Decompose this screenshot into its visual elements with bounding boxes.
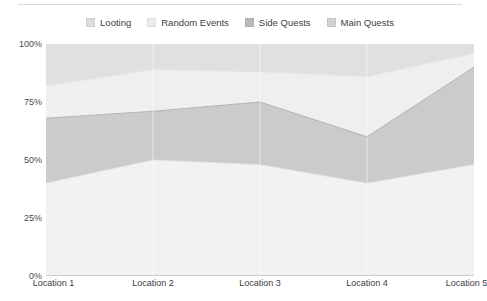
legend-item-looting[interactable]: Looting [86, 17, 131, 28]
y-tick-label: 25% [2, 213, 42, 223]
legend-item-label: Main Quests [341, 17, 394, 28]
legend-item-label: Side Quests [259, 17, 311, 28]
legend-item-label: Looting [100, 17, 131, 28]
x-tick-label: Location 1 [33, 278, 75, 289]
chart-legend: LootingRandom EventsSide QuestsMain Ques… [0, 14, 480, 30]
legend-item-label: Random Events [161, 17, 229, 28]
plot-svg [46, 44, 474, 276]
legend-swatch-icon [245, 18, 254, 27]
legend-swatch-icon [86, 18, 95, 27]
y-axis: 0%25%50%75%100% [0, 0, 42, 301]
legend-swatch-icon [327, 18, 336, 27]
legend-swatch-icon [147, 18, 156, 27]
x-axis: Location 1Location 2Location 3Location 4… [46, 278, 474, 294]
x-tick-label: Location 3 [239, 278, 281, 289]
x-tick-label: Location 2 [132, 278, 174, 289]
y-tick-label: 50% [2, 155, 42, 165]
x-tick-label: Location 4 [346, 278, 388, 289]
legend-item-random-events[interactable]: Random Events [147, 17, 229, 28]
header-divider [18, 4, 462, 5]
plot-area [46, 44, 474, 276]
legend-item-side-quests[interactable]: Side Quests [245, 17, 311, 28]
y-tick-label: 100% [2, 39, 42, 49]
legend-item-main-quests[interactable]: Main Quests [327, 17, 394, 28]
y-tick-label: 75% [2, 97, 42, 107]
x-tick-label: Location 5 [446, 278, 487, 289]
